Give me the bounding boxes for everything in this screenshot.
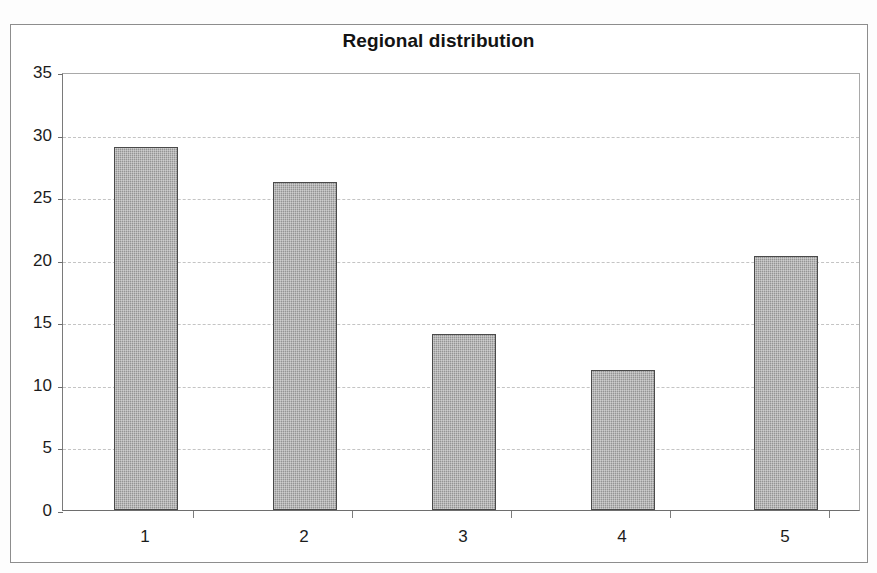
y-axis-tick (58, 199, 63, 200)
gridline (63, 137, 859, 138)
y-axis-tick (58, 449, 63, 450)
y-axis-tick (58, 137, 63, 138)
x-axis-tick (352, 511, 353, 518)
x-axis-tick (511, 511, 512, 518)
y-axis-label: 10 (8, 377, 52, 394)
y-axis-tick (58, 262, 63, 263)
x-axis-tick (670, 511, 671, 518)
y-axis-label: 20 (8, 252, 52, 269)
chart-figure: Regional distribution 05101520253035 123… (0, 0, 877, 573)
y-axis-tick (58, 74, 63, 75)
bar (591, 370, 655, 510)
y-axis-label: 15 (8, 314, 52, 331)
x-axis-label: 5 (745, 528, 825, 546)
chart-title: Regional distribution (0, 30, 877, 52)
y-axis-label: 30 (8, 127, 52, 144)
y-axis-label: 5 (8, 439, 52, 456)
x-axis-label: 4 (582, 528, 662, 546)
gridline (63, 262, 859, 263)
y-axis-tick (58, 387, 63, 388)
y-axis-label: 35 (8, 64, 52, 81)
bar (432, 334, 496, 510)
plot-area (62, 73, 860, 511)
y-axis-labels: 05101520253035 (0, 73, 52, 511)
x-axis-label: 2 (264, 528, 344, 546)
bar (273, 182, 337, 510)
y-axis-tick (58, 512, 63, 513)
x-axis-label: 1 (105, 528, 185, 546)
x-axis-label: 3 (423, 528, 503, 546)
gridline (63, 324, 859, 325)
x-axis-tick (829, 511, 830, 518)
y-axis-tick (58, 324, 63, 325)
gridline (63, 199, 859, 200)
x-axis-tick (193, 511, 194, 518)
y-axis-label: 0 (8, 502, 52, 519)
y-axis-label: 25 (8, 189, 52, 206)
bar (754, 256, 818, 510)
bar (114, 147, 178, 510)
